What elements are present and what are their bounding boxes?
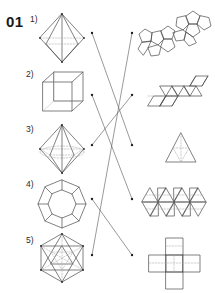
icosahedron-net-strip[interactable] [142,188,206,216]
cube-net-cross[interactable] [149,238,200,289]
dodecahedron-net[interactable] [138,11,211,56]
octahedron-net-strip[interactable] [148,76,208,106]
match-line-3[interactable] [92,95,132,145]
match-line-4[interactable] [92,199,132,255]
worksheet-page: 01 1) 2) 3) 4) 5) [0,0,215,293]
match-line-1[interactable] [92,33,132,145]
cube-solid[interactable] [43,72,83,111]
dodecahedron-solid[interactable] [38,180,86,228]
octahedron-solid[interactable] [39,13,85,63]
icosahedron-solid[interactable] [40,233,84,283]
match-line-2[interactable] [92,95,132,199]
match-line-5[interactable] [92,33,132,255]
hexagonal-bipyramid-solid[interactable] [39,124,85,174]
tetrahedron-net[interactable] [166,133,196,162]
